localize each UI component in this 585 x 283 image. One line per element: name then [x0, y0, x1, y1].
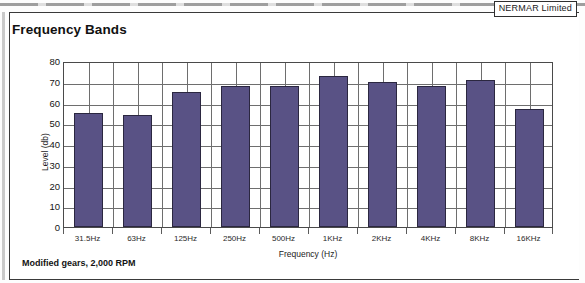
- x-axis-tick-labels: 31.5Hz63Hz125Hz250Hz500Hz1KHz2KHz4KHz8KH…: [63, 234, 553, 248]
- x-axis-tick-label: 4KHz: [421, 234, 441, 244]
- x-axis-tick-label: 16KHz: [516, 234, 540, 244]
- y-axis-tick-label: 60: [49, 99, 60, 109]
- company-name-tag: NERMAR Limited: [494, 1, 577, 17]
- bar: [221, 86, 250, 227]
- x-axis-tick-label: 2KHz: [372, 234, 392, 244]
- bar: [368, 82, 397, 227]
- x-axis-tick-label: 500Hz: [272, 234, 295, 244]
- y-axis-tick-label: 0: [55, 223, 60, 233]
- bar: [172, 92, 201, 227]
- x-axis-tick-label: 1KHz: [323, 234, 343, 244]
- bar: [417, 86, 446, 227]
- page-bottom-rule: [9, 279, 579, 280]
- bar: [270, 86, 299, 227]
- bar: [466, 80, 495, 227]
- bar: [319, 76, 348, 227]
- x-axis-tick-label: 125Hz: [174, 234, 197, 244]
- bar: [74, 113, 103, 227]
- x-axis-tick-label: 8KHz: [470, 234, 490, 244]
- x-axis-tick-label: 250Hz: [223, 234, 246, 244]
- plot-area: [63, 62, 553, 228]
- chart-title: Frequency Bands: [12, 22, 127, 37]
- page-edge-left-artifact: [2, 12, 5, 280]
- y-axis-tick-label: 40: [49, 140, 60, 150]
- chart-footnote: Modified gears, 2,000 RPM: [22, 258, 136, 268]
- x-axis-tick-label: 63Hz: [127, 234, 146, 244]
- y-axis-tick-label: 70: [49, 78, 60, 88]
- y-axis-tick-labels: 80706050403020100: [30, 62, 60, 228]
- x-axis-title: Frequency (Hz): [63, 249, 553, 259]
- y-axis-tick-label: 80: [49, 57, 60, 67]
- x-axis-tick-label: 31.5Hz: [75, 234, 100, 244]
- bar: [515, 109, 544, 227]
- bar-chart: Level (db) 80706050403020100 31.5Hz63Hz1…: [12, 55, 560, 267]
- bar-series: [64, 63, 552, 227]
- y-axis-tick-label: 20: [49, 182, 60, 192]
- bar: [123, 115, 152, 227]
- scanned-page: NERMAR Limited Frequency Bands Level (db…: [0, 0, 585, 283]
- y-axis-tick-label: 30: [49, 161, 60, 171]
- y-axis-tick-label: 50: [49, 120, 60, 130]
- y-axis-tick-label: 10: [49, 203, 60, 213]
